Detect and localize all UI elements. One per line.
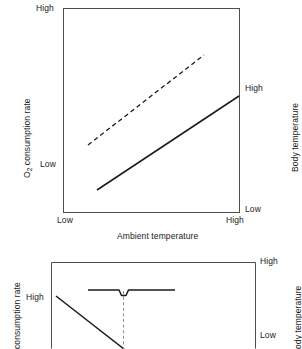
endotherm-plot-svg bbox=[0, 245, 302, 349]
x-tick-low: Low bbox=[57, 216, 73, 225]
x-axis-title: Ambient temperature bbox=[117, 232, 198, 241]
x-tick-high: High bbox=[226, 216, 244, 225]
ectotherm-panel: High Low Low High High Low Ambient tempe… bbox=[0, 0, 302, 240]
right-tick-high: High bbox=[260, 257, 278, 266]
y-axis-title-suffix: consumption rate bbox=[22, 98, 32, 167]
y-axis-title-prefix: O bbox=[22, 171, 32, 178]
right-tick-low: Low bbox=[260, 331, 276, 340]
right-tick-low: Low bbox=[245, 205, 261, 214]
plot-frame bbox=[52, 263, 256, 349]
y-tick-high: High bbox=[36, 4, 54, 13]
right-axis-title: ody temperature bbox=[293, 286, 302, 349]
plot-frame bbox=[64, 9, 240, 213]
endotherm-panel: High High Low consumption rate ody tempe… bbox=[0, 245, 302, 349]
y-tick-low: Low bbox=[40, 160, 56, 169]
figure-container: High Low Low High High Low Ambient tempe… bbox=[0, 0, 302, 349]
series-o2-consumption-solid bbox=[97, 96, 239, 190]
y-axis-title: consumption rate bbox=[12, 282, 22, 349]
right-axis-title: Body temperature bbox=[290, 103, 300, 172]
y-axis-title: O2 consumption rate bbox=[22, 98, 32, 178]
y-axis-title-subscript: 2 bbox=[26, 168, 33, 172]
series-body-temperature-notched bbox=[88, 290, 175, 296]
series-o2-consumption-solid bbox=[56, 296, 124, 349]
y-tick-high: High bbox=[26, 293, 44, 302]
right-tick-high: High bbox=[245, 84, 263, 93]
